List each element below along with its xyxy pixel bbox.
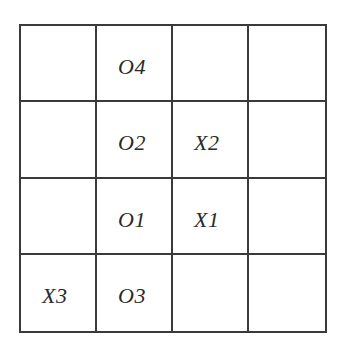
cell-r0-c2[interactable]: [173, 26, 249, 102]
cell-mark: X2: [194, 132, 219, 154]
cell-r1-c3[interactable]: [249, 102, 325, 178]
cell-r3-c2[interactable]: [173, 255, 249, 331]
cell-r2-c0[interactable]: [21, 179, 97, 255]
cell-r0-c0[interactable]: [21, 26, 97, 102]
cell-mark: O1: [118, 209, 146, 231]
cell-r2-c1[interactable]: O1: [97, 179, 173, 255]
cell-r0-c3[interactable]: [249, 26, 325, 102]
cell-mark: O2: [118, 132, 146, 154]
cell-r2-c3[interactable]: [249, 179, 325, 255]
cell-mark: X3: [42, 285, 67, 307]
cell-mark: O3: [118, 285, 146, 307]
cell-r1-c2[interactable]: X2: [173, 102, 249, 178]
cell-r1-c0[interactable]: [21, 102, 97, 178]
cell-r3-c3[interactable]: [249, 255, 325, 331]
cell-r1-c1[interactable]: O2: [97, 102, 173, 178]
game-board-grid: O4 O2 X2 O1 X1 X3 O3: [19, 24, 327, 333]
cell-r3-c0[interactable]: X3: [21, 255, 97, 331]
cell-r3-c1[interactable]: O3: [97, 255, 173, 331]
cell-mark: O4: [118, 56, 146, 78]
cell-r2-c2[interactable]: X1: [173, 179, 249, 255]
cell-r0-c1[interactable]: O4: [97, 26, 173, 102]
cell-mark: X1: [194, 209, 219, 231]
